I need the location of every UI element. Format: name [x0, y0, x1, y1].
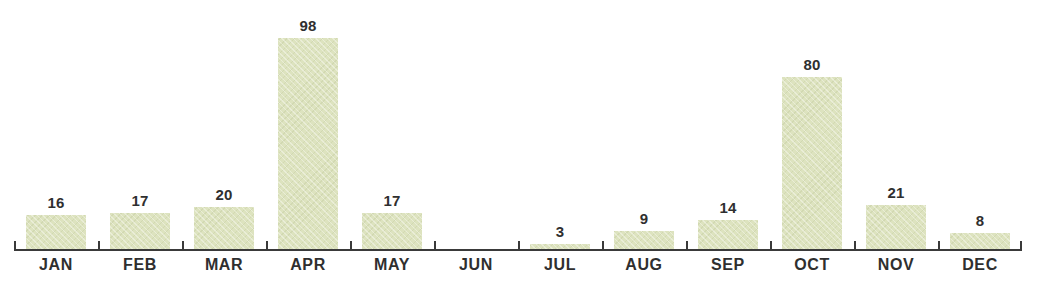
bar-category-apr: 98 [266, 0, 350, 250]
bar-chart: 1617209817391480218 JANFEBMARAPRMAYJUNJU… [0, 0, 1054, 293]
bar-category-nov: 21 [854, 0, 938, 250]
x-label-may: MAY [350, 256, 434, 274]
plot-area: 1617209817391480218 [14, 0, 1022, 250]
bar-category-jul: 3 [518, 0, 602, 250]
x-axis-labels: JANFEBMARAPRMAYJUNJULAUGSEPOCTNOVDEC [14, 256, 1022, 274]
bar-value-label: 17 [131, 193, 148, 208]
bar-value-label: 98 [299, 18, 316, 33]
bar-category-jan: 16 [14, 0, 98, 250]
x-label-jul: JUL [518, 256, 602, 274]
bar-wrapper: 98 [266, 18, 350, 250]
x-label-mar: MAR [182, 256, 266, 274]
x-label-sep: SEP [686, 256, 770, 274]
bar-category-aug: 9 [602, 0, 686, 250]
bar-value-label: 16 [47, 195, 64, 210]
x-label-nov: NOV [854, 256, 938, 274]
bar [782, 77, 842, 250]
x-label-dec: DEC [938, 256, 1022, 274]
x-label-jun: JUN [434, 256, 518, 274]
x-label-jan: JAN [14, 256, 98, 274]
bar-category-feb: 17 [98, 0, 182, 250]
bar-wrapper: 80 [770, 57, 854, 250]
bar-value-label: 17 [383, 193, 400, 208]
bar-series: 1617209817391480218 [14, 0, 1022, 250]
bar [278, 38, 338, 250]
x-label-feb: FEB [98, 256, 182, 274]
x-label-oct: OCT [770, 256, 854, 274]
bar-value-label: 3 [556, 224, 565, 239]
x-label-aug: AUG [602, 256, 686, 274]
x-label-apr: APR [266, 256, 350, 274]
bar-value-label: 14 [719, 200, 736, 215]
bar-value-label: 80 [803, 57, 820, 72]
bar-category-sep: 14 [686, 0, 770, 250]
bar-category-mar: 20 [182, 0, 266, 250]
bar-value-label: 8 [976, 213, 985, 228]
bar-category-dec: 8 [938, 0, 1022, 250]
bar-category-oct: 80 [770, 0, 854, 250]
bar-value-label: 20 [215, 187, 232, 202]
bar-category-may: 17 [350, 0, 434, 250]
x-axis-line [14, 249, 1022, 251]
bar-category-jun [434, 0, 518, 250]
bar-value-label: 9 [640, 211, 649, 226]
bar-value-label: 21 [887, 185, 904, 200]
